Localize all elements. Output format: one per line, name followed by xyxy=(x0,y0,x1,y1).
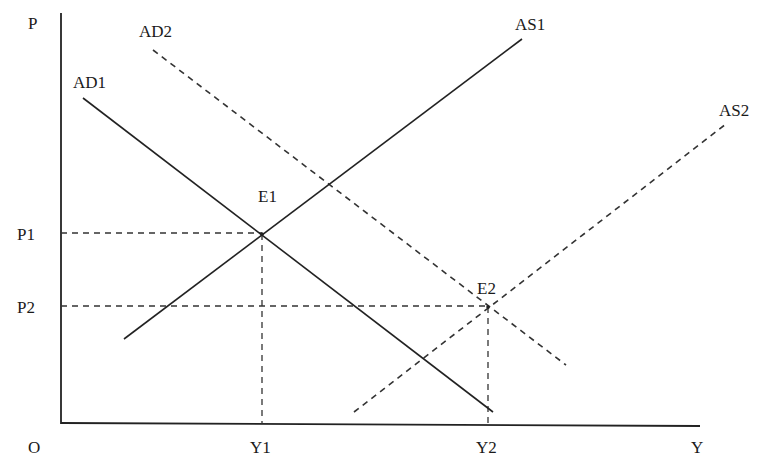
curve-ad1 xyxy=(83,98,493,412)
x-axis xyxy=(61,423,700,426)
price-label-p1: P1 xyxy=(17,225,35,244)
output-label-y2: Y2 xyxy=(476,438,497,457)
equilibrium-label-e1: E1 xyxy=(258,187,277,206)
curve-as2 xyxy=(354,124,726,412)
guide-lines xyxy=(61,233,488,425)
curve-label-ad2: AD2 xyxy=(139,22,172,41)
curve-label-as2: AS2 xyxy=(719,101,749,120)
curve-ad2 xyxy=(153,50,566,365)
origin-label: O xyxy=(28,438,40,457)
curve-as1 xyxy=(124,39,522,339)
axes xyxy=(61,13,700,426)
curve-label-ad1: AD1 xyxy=(73,73,106,92)
curve-label-as1: AS1 xyxy=(515,15,545,34)
curves xyxy=(83,39,726,412)
x-axis-label: Y xyxy=(691,438,703,457)
labels: P Y O P1 P2 Y1 Y2 AD1 AD2 AS1 AS2 E1 E2 xyxy=(17,14,749,457)
equilibrium-label-e2: E2 xyxy=(477,279,496,298)
equilibrium-point-e1 xyxy=(260,232,264,236)
equilibrium-point-e2 xyxy=(486,305,490,309)
price-label-p2: P2 xyxy=(17,298,35,317)
ad-as-diagram: P Y O P1 P2 Y1 Y2 AD1 AD2 AS1 AS2 E1 E2 xyxy=(0,0,764,475)
y-axis-label: P xyxy=(28,14,37,33)
output-label-y1: Y1 xyxy=(250,438,271,457)
